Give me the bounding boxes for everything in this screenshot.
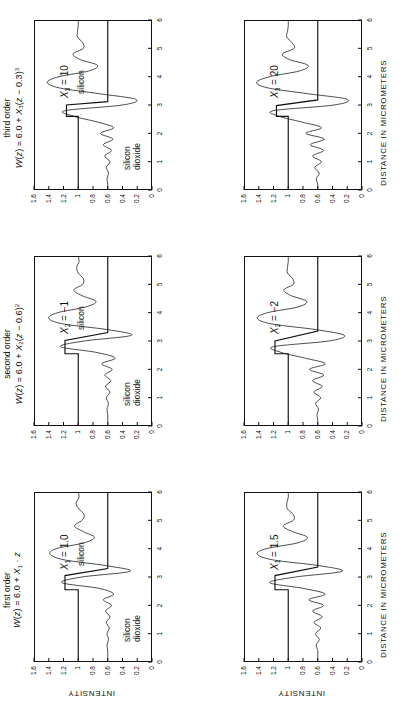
x-tick-label: 5 (366, 511, 373, 529)
x-tick-label: 1 (156, 389, 163, 407)
x-tick-label: 5 (156, 511, 163, 529)
x-tick-label: 3 (366, 568, 373, 586)
x-tick-label: 3 (366, 332, 373, 350)
y-tick-label: 0.2 (343, 430, 350, 452)
x-tick-label: 6 (366, 247, 373, 265)
figure-page: first orderW(z) = 6.0 + X1 · z1.61.41.21… (0, 0, 420, 708)
y-tick-label: 0.6 (314, 666, 321, 688)
x-tick-label: 1 (366, 625, 373, 643)
x-tick-label: 1 (156, 153, 163, 171)
panel-parameter-label: X1 = 1.0 (60, 534, 73, 570)
y-tick-label: 1.6 (30, 194, 37, 216)
y-tick-label: 1.6 (240, 430, 247, 452)
y-tick-label: 1.6 (30, 666, 37, 688)
y-tick-label: 1.6 (240, 194, 247, 216)
subplot-panel-x3-20: 1.61.41.210.80.60.40.200123456X3 = 20DIS… (210, 0, 420, 236)
y-tick-label: 0 (358, 666, 365, 688)
curve-measured-intensity (49, 256, 132, 426)
material-label-silicon-dioxide: silicondioxide (122, 615, 142, 642)
subplot-panel-x2-m2: 1.61.41.210.80.60.40.200123456X2 = −2DIS… (210, 236, 420, 472)
y-tick-label: 0.6 (104, 666, 111, 688)
x-tick-label: 1 (156, 625, 163, 643)
y-tick-label: 0.2 (133, 430, 140, 452)
x-axis-label: DISTANCE IN MICROMETERS (379, 60, 388, 186)
y-tick-label: 0.6 (314, 430, 321, 452)
y-tick-label: 1 (74, 430, 81, 452)
x-tick-label: 5 (366, 39, 373, 57)
y-tick-label: 0.8 (89, 666, 96, 688)
x-tick-label: 5 (366, 275, 373, 293)
x-tick-label: 3 (156, 332, 163, 350)
subplot-panel-x1-1p0: first orderW(z) = 6.0 + X1 · z1.61.41.21… (0, 472, 210, 708)
x-tick-label: 4 (366, 540, 373, 558)
panel-parameter-label: X3 = 20 (270, 65, 283, 98)
subplot-panel-x1-1p5: 1.61.41.210.80.60.40.200123456X1 = 1.5DI… (210, 472, 420, 708)
material-label-silicon-dioxide: silicondioxide (122, 379, 142, 406)
y-tick-label: 0.6 (104, 430, 111, 452)
y-tick-label: 1.6 (30, 430, 37, 452)
curve-ideal-step (275, 256, 318, 426)
x-tick-label: 1 (366, 389, 373, 407)
y-tick-label: 1.4 (255, 666, 262, 688)
y-tick-label: 1.2 (270, 666, 277, 688)
x-tick-label: 4 (366, 68, 373, 86)
curve-ideal-step (66, 20, 107, 190)
curve-measured-intensity (257, 256, 345, 426)
y-tick-label: 0 (148, 666, 155, 688)
y-tick-label: 0.6 (104, 194, 111, 216)
y-tick-label: 1 (74, 666, 81, 688)
y-tick-label: 0 (148, 430, 155, 452)
x-tick-label: 2 (366, 596, 373, 614)
y-tick-label: 1.2 (270, 430, 277, 452)
material-label-silicon: silicon (76, 542, 86, 566)
y-tick-label: 1.4 (45, 666, 52, 688)
y-tick-label: 1 (284, 194, 291, 216)
y-tick-label: 0.2 (343, 666, 350, 688)
y-tick-label: 1 (284, 666, 291, 688)
x-tick-label: 0 (156, 417, 163, 435)
x-tick-label: 4 (156, 68, 163, 86)
material-label-silicon-dioxide: silicondioxide (122, 143, 142, 170)
x-tick-label: 6 (156, 11, 163, 29)
curve-measured-intensity (257, 492, 343, 662)
material-label-silicon: silicon (76, 70, 86, 94)
y-tick-label: 1 (74, 194, 81, 216)
y-tick-label: 0.6 (314, 194, 321, 216)
y-tick-label: 1.2 (60, 666, 67, 688)
x-tick-label: 5 (156, 39, 163, 57)
y-tick-label: 1 (284, 430, 291, 452)
x-tick-label: 2 (156, 596, 163, 614)
y-tick-label: 0.8 (299, 430, 306, 452)
x-tick-label: 5 (156, 275, 163, 293)
y-tick-label: 0.8 (89, 430, 96, 452)
subplot-panel-x3-10: third orderW(z) = 6.0 + X3(z − 0.3)31.61… (0, 0, 210, 236)
subplot-grid: first orderW(z) = 6.0 + X1 · z1.61.41.21… (0, 0, 420, 708)
x-tick-label: 2 (156, 360, 163, 378)
y-tick-label: 0.8 (299, 194, 306, 216)
material-label-silicon: silicon (76, 306, 86, 330)
panel-parameter-label: X2 = −1 (60, 301, 73, 334)
y-tick-label: 1.4 (45, 194, 52, 216)
x-tick-label: 6 (366, 483, 373, 501)
y-tick-label: 1.4 (255, 194, 262, 216)
y-tick-label: 0.2 (343, 194, 350, 216)
curve-measured-intensity (257, 20, 349, 190)
y-tick-label: 1.4 (45, 430, 52, 452)
y-tick-label: 0.4 (119, 194, 126, 216)
y-tick-label: 0.2 (133, 194, 140, 216)
y-tick-label: 1.2 (60, 430, 67, 452)
x-tick-label: 4 (156, 304, 163, 322)
x-tick-label: 6 (156, 247, 163, 265)
panel-parameter-label: X2 = −2 (270, 301, 283, 334)
x-tick-label: 0 (366, 653, 373, 671)
y-tick-label: 0.8 (299, 666, 306, 688)
x-tick-label: 0 (366, 417, 373, 435)
y-axis-label: INTENSITY (57, 689, 127, 698)
x-tick-label: 4 (366, 304, 373, 322)
x-tick-label: 2 (156, 124, 163, 142)
curve-ideal-step (65, 492, 108, 662)
y-tick-label: 1.2 (60, 194, 67, 216)
curve-measured-intensity (50, 492, 131, 662)
x-tick-label: 0 (156, 181, 163, 199)
y-axis-label: INTENSITY (267, 689, 337, 698)
